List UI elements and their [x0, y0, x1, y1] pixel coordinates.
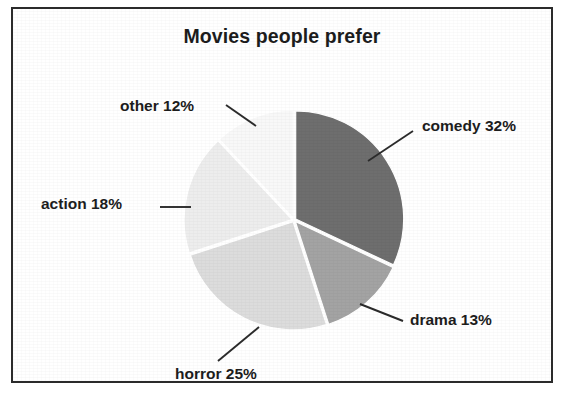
pie-label-comedy: comedy 32%	[422, 117, 516, 135]
pie-label-drama: drama 13%	[410, 311, 492, 329]
leader-line-horror	[218, 327, 259, 361]
pie-chart: comedy 32% drama 13% horror 25% action 1…	[13, 9, 555, 385]
pie-label-horror: horror 25%	[175, 365, 257, 383]
pie-slice-group	[184, 110, 404, 330]
leader-line-drama	[360, 304, 403, 321]
chart-frame: Movies people prefer comedy 32% drama 13…	[11, 7, 553, 383]
leader-line-other	[226, 105, 256, 126]
pie-label-other: other 12%	[120, 97, 194, 115]
pie-label-action: action 18%	[41, 195, 122, 213]
